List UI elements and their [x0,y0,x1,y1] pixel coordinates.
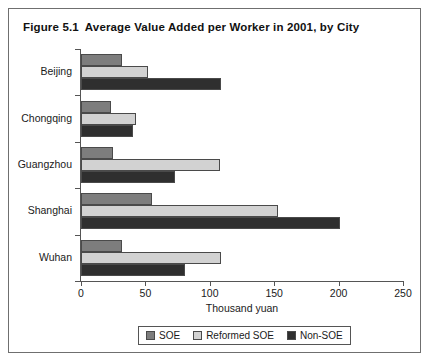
y-tick [75,49,80,50]
bar-guangzhou-soe [81,147,113,159]
bar-wuhan-nonsoe [81,264,185,276]
legend-label-soe: SOE [159,330,180,341]
x-tick [403,282,404,286]
legend-item-soe: SOE [146,330,180,341]
x-tick-label: 0 [78,287,84,299]
y-tick [75,142,80,143]
x-tick [210,282,211,286]
x-tick [274,282,275,286]
legend-label-non-soe: Non-SOE [300,330,343,341]
y-tick [75,188,80,189]
figure-title: Figure 5.1Average Value Added per Worker… [23,21,359,33]
y-axis-label-guangzhou: Guangzhou [18,158,72,170]
bar-wuhan-soe [81,240,122,252]
bar-guangzhou-nonsoe [81,171,175,183]
chart-legend: SOE Reformed SOE Non-SOE [138,326,351,345]
legend-item-non-soe: Non-SOE [287,330,343,341]
y-tick [75,281,80,282]
y-axis-label-chongqing: Chongqing [21,112,72,124]
x-tick-label: 250 [394,287,412,299]
bar-chongqing-nonsoe [81,125,133,137]
x-tick [145,282,146,286]
bar-beijing-nonsoe [81,78,221,90]
bar-beijing-reformed [81,66,148,78]
legend-swatch-non-soe [287,331,296,340]
figure-title-text: Average Value Added per Worker in 2001, … [85,21,359,33]
x-tick-label: 50 [140,287,152,299]
bar-chongqing-reformed [81,113,136,125]
y-tick [75,235,80,236]
x-tick-label: 100 [201,287,219,299]
y-axis-label-shanghai: Shanghai [28,204,72,216]
bar-beijing-soe [81,54,122,66]
bar-wuhan-reformed [81,252,221,264]
y-axis-label-wuhan: Wuhan [39,251,72,263]
plot-area [81,49,403,281]
legend-label-reformed-soe: Reformed SOE [206,330,274,341]
x-tick-label: 150 [265,287,283,299]
legend-swatch-soe [146,331,155,340]
bar-guangzhou-reformed [81,159,220,171]
legend-item-reformed-soe: Reformed SOE [193,330,274,341]
x-axis-title: Thousand yuan [81,302,403,314]
bar-shanghai-reformed [81,205,278,217]
y-axis-category-labels: BeijingChongqingGuangzhouShanghaiWuhan [0,0,72,363]
y-tick [75,95,80,96]
legend-swatch-reformed-soe [193,331,202,340]
x-tick [339,282,340,286]
x-tick-label: 200 [330,287,348,299]
y-axis-label-beijing: Beijing [40,65,72,77]
bar-shanghai-soe [81,193,152,205]
x-axis-line [81,281,404,282]
x-tick [81,282,82,286]
bar-shanghai-nonsoe [81,217,340,229]
bar-chongqing-soe [81,101,111,113]
